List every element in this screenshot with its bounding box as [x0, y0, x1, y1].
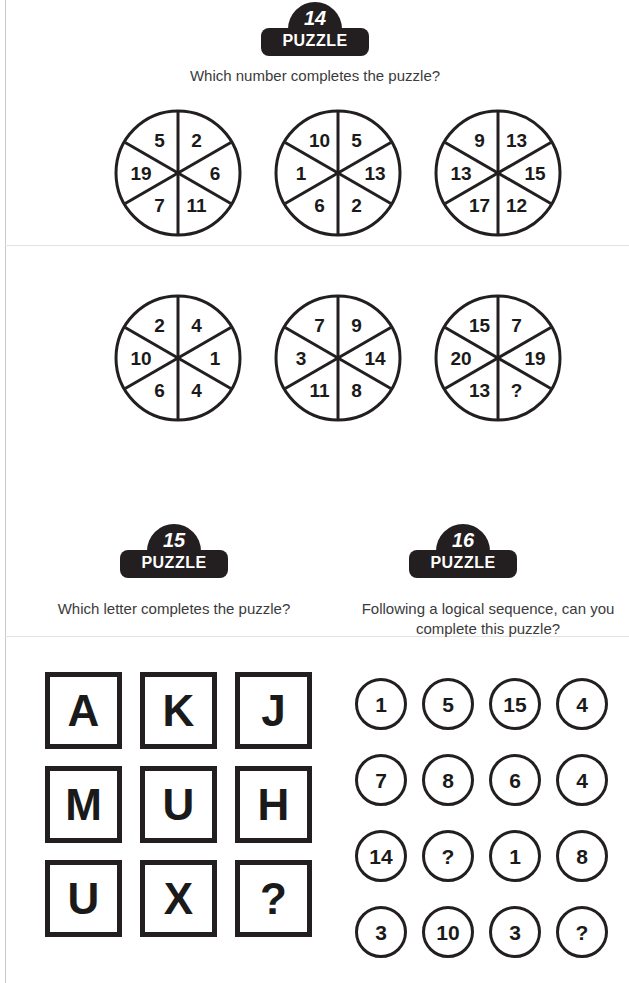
- pie-segment-value: 5: [154, 130, 165, 151]
- number-cell[interactable]: 14: [355, 830, 407, 882]
- pie-segment-value: 9: [351, 315, 362, 336]
- letter-cell[interactable]: U: [140, 766, 217, 843]
- pie-segment-value: 7: [154, 195, 165, 216]
- number-value: 5: [442, 694, 454, 715]
- letter-value: U: [68, 877, 100, 921]
- number-cell[interactable]: 7: [355, 754, 407, 806]
- pie-segment-value: 13: [506, 130, 527, 151]
- pie-segment-value: 6: [154, 380, 165, 401]
- number-value: 3: [509, 922, 521, 943]
- number-value: 4: [576, 770, 588, 791]
- pie-segment-value: 1: [296, 163, 307, 184]
- puzzle-14-badge-number: 14: [261, 7, 369, 30]
- letter-value: U: [163, 783, 195, 827]
- puzzle-14-badge: 14 PUZZLE: [261, 2, 369, 56]
- pie-segment-value: 20: [450, 348, 471, 369]
- pie-segment-value: 11: [309, 380, 330, 401]
- puzzle-16-number-grid: 1 5 15 4 7 8 6 4 14 ? 1 8 3 10 3 ?: [355, 678, 608, 958]
- letter-value: J: [261, 689, 285, 733]
- puzzle-16-badge-number: 16: [409, 529, 517, 552]
- letter-cell[interactable]: X: [140, 860, 217, 937]
- letter-value: H: [258, 783, 290, 827]
- pie-segment-value: 15: [524, 163, 546, 184]
- number-cell[interactable]: 3: [489, 906, 541, 958]
- number-value: 3: [375, 922, 387, 943]
- number-value: 8: [576, 846, 588, 867]
- letter-cell[interactable]: H: [235, 766, 312, 843]
- puzzle-14-circle-2: 10513261: [272, 107, 404, 239]
- letter-cell[interactable]: U: [45, 860, 122, 937]
- number-cell[interactable]: 8: [422, 754, 474, 806]
- number-cell[interactable]: 8: [556, 830, 608, 882]
- pie-segment-value: 19: [130, 163, 151, 184]
- puzzle-16-question: Following a logical sequence, can you co…: [352, 599, 624, 639]
- pie-segment-value: 2: [191, 130, 202, 151]
- pie-segment-value: 9: [474, 130, 485, 151]
- pie-segment-value: 7: [314, 315, 325, 336]
- puzzle-14-circle-4: 2414610: [112, 292, 244, 424]
- number-value: 6: [509, 770, 521, 791]
- puzzle-14-circle-3: 91315121713: [432, 107, 564, 239]
- number-cell[interactable]: 3: [355, 906, 407, 958]
- letter-answer-placeholder: ?: [260, 877, 287, 921]
- pie-segment-value: 2: [154, 315, 165, 336]
- number-value: 14: [369, 846, 392, 867]
- pie-segment-value: 19: [524, 348, 545, 369]
- pie-segment-value: 13: [364, 163, 385, 184]
- pie-segment-value: 5: [351, 130, 362, 151]
- puzzle-14-badge-word: PUZZLE: [261, 32, 369, 50]
- number-cell[interactable]: ?: [422, 830, 474, 882]
- puzzle-15-badge: 15 PUZZLE: [120, 524, 228, 578]
- number-cell[interactable]: 1: [355, 678, 407, 730]
- pie-segment-value: 13: [450, 163, 471, 184]
- number-cell[interactable]: 15: [489, 678, 541, 730]
- number-cell[interactable]: 4: [556, 678, 608, 730]
- puzzle-16-badge: 16 PUZZLE: [409, 524, 517, 578]
- number-cell[interactable]: ?: [556, 906, 608, 958]
- letter-value: X: [164, 877, 193, 921]
- number-value: 4: [576, 694, 588, 715]
- number-value: 15: [503, 694, 526, 715]
- number-value: 1: [375, 694, 387, 715]
- pie-segment-value: 10: [130, 348, 151, 369]
- letter-cell[interactable]: M: [45, 766, 122, 843]
- letter-cell[interactable]: J: [235, 672, 312, 749]
- pie-segment-value: ?: [511, 380, 523, 401]
- pie-segment-value: 10: [309, 130, 330, 151]
- pie-segment-value: 8: [351, 380, 362, 401]
- pie-segment-value: 13: [469, 380, 490, 401]
- puzzle-15-question: Which letter completes the puzzle?: [14, 599, 334, 619]
- puzzle-14-question: Which number completes the puzzle?: [115, 66, 515, 86]
- number-value: 10: [436, 922, 459, 943]
- letter-value: A: [68, 689, 100, 733]
- pie-segment-value: 17: [469, 195, 490, 216]
- letter-value: M: [65, 783, 102, 827]
- page-divider-rule-1: [5, 245, 629, 246]
- number-cell[interactable]: 6: [489, 754, 541, 806]
- number-value: 8: [442, 770, 454, 791]
- puzzle-15-letter-grid: A K J M U H U X ?: [45, 672, 312, 937]
- number-answer-placeholder: ?: [576, 922, 589, 943]
- pie-segment-value: 14: [364, 348, 386, 369]
- pie-segment-value: 12: [506, 195, 527, 216]
- letter-cell[interactable]: ?: [235, 860, 312, 937]
- puzzle-14-circle-1: 52611719: [112, 107, 244, 239]
- number-cell[interactable]: 10: [422, 906, 474, 958]
- puzzle-14-circle-5: 79148113: [272, 292, 404, 424]
- number-value: 7: [375, 770, 387, 791]
- number-cell[interactable]: 4: [556, 754, 608, 806]
- puzzle-14-circle-6: 15719?1320: [432, 292, 564, 424]
- pie-segment-value: 7: [511, 315, 522, 336]
- pie-segment-value: 15: [469, 315, 491, 336]
- number-answer-placeholder: ?: [442, 846, 455, 867]
- letter-cell[interactable]: A: [45, 672, 122, 749]
- letter-cell[interactable]: K: [140, 672, 217, 749]
- number-cell[interactable]: 1: [489, 830, 541, 882]
- puzzle-15-badge-number: 15: [120, 529, 228, 552]
- page-left-rule: [5, 0, 6, 983]
- pie-segment-value: 1: [210, 348, 221, 369]
- pie-segment-value: 4: [191, 315, 202, 336]
- puzzle-15-badge-word: PUZZLE: [120, 554, 228, 572]
- number-cell[interactable]: 5: [422, 678, 474, 730]
- number-value: 1: [509, 846, 521, 867]
